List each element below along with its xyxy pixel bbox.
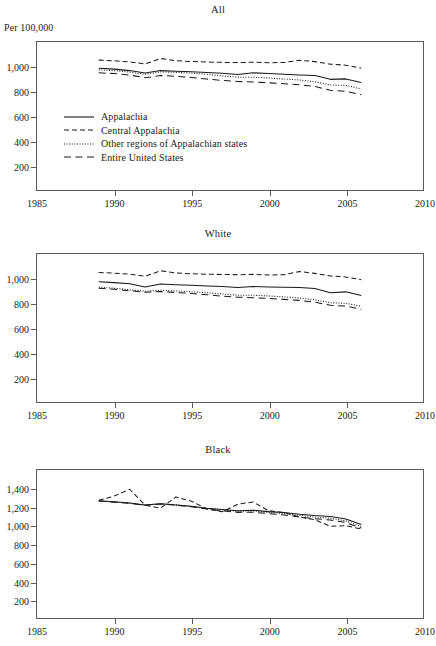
chart-panel-white: White 2004006008001,00019851990199520002… <box>0 228 436 436</box>
legend-item-central-appalachia[interactable]: Central Appalachia <box>64 124 247 138</box>
x-axis-tick-label: 1995 <box>182 410 202 421</box>
series-line-central-appalachia <box>99 489 361 529</box>
y-axis-tick-label: 600 <box>14 324 29 335</box>
y-axis-tick <box>31 508 37 509</box>
y-axis-tick-label: 600 <box>14 558 29 569</box>
x-axis-tick <box>347 402 348 408</box>
x-axis-tick <box>115 618 116 624</box>
y-axis-tick-label: 200 <box>14 374 29 385</box>
legend-item-entire-united-states[interactable]: Entire United States <box>64 151 247 165</box>
series-line-entire-united-states <box>99 501 361 528</box>
y-axis-tick <box>31 142 37 143</box>
x-axis-tick-label: 1990 <box>105 410 125 421</box>
x-axis-tick-label: 2010 <box>415 626 435 637</box>
x-axis-tick-label: 1985 <box>27 198 47 209</box>
y-axis-tick-label: 400 <box>14 137 29 148</box>
figure-page: All Per 100,000 2004006008001,0001985199… <box>0 0 436 646</box>
x-axis-tick <box>347 190 348 196</box>
legend-item-other-regions[interactable]: Other regions of Appalachian states <box>64 137 247 151</box>
x-axis-tick-label: 2005 <box>337 626 357 637</box>
y-axis-tick <box>31 489 37 490</box>
x-axis-tick-label: 2010 <box>415 198 435 209</box>
x-axis-tick <box>115 402 116 408</box>
x-axis-tick-label: 1995 <box>182 198 202 209</box>
x-axis-tick-label: 1995 <box>182 626 202 637</box>
panel-title-black: Black <box>0 444 436 455</box>
y-axis-tick-label: 800 <box>14 540 29 551</box>
y-axis-tick-label: 600 <box>14 112 29 123</box>
x-axis-tick-label: 2010 <box>415 410 435 421</box>
y-axis-tick-label: 1,000 <box>7 521 30 532</box>
plot-area-black: 2004006008001,0001,2001,4001985199019952… <box>36 469 424 619</box>
x-axis-tick-label: 1990 <box>105 626 125 637</box>
x-axis-tick <box>192 190 193 196</box>
series-line-appalachia <box>99 282 361 296</box>
y-axis-tick-label: 800 <box>14 87 29 98</box>
y-axis-tick <box>31 526 37 527</box>
y-axis-tick <box>31 564 37 565</box>
legend-key-appalachia-icon <box>64 112 94 122</box>
y-axis-tick-label: 200 <box>14 596 29 607</box>
legend-key-other-regions-icon <box>64 139 94 149</box>
x-axis-tick <box>270 402 271 408</box>
y-axis-tick <box>31 545 37 546</box>
x-axis-tick-label: 2005 <box>337 410 357 421</box>
legend-item-appalachia[interactable]: Appalachia <box>64 110 247 124</box>
y-axis-tick-label: 400 <box>14 577 29 588</box>
series-line-other-regions-of-appalachian-states <box>99 70 361 89</box>
plot-area-white: 2004006008001,00019851990199520002005201… <box>36 253 424 403</box>
y-axis-tick <box>31 67 37 68</box>
y-axis-tick-label: 1,400 <box>7 483 30 494</box>
legend-label: Other regions of Appalachian states <box>101 138 247 149</box>
series-line-other-regions-of-appalachian-states <box>99 501 361 526</box>
y-axis-tick <box>31 379 37 380</box>
series-line-central-appalachia <box>99 59 361 69</box>
y-axis-tick <box>31 167 37 168</box>
axis-unit-label: Per 100,000 <box>4 22 53 33</box>
plot-lines-white <box>37 254 423 402</box>
legend-key-entire-united-states-icon <box>64 152 94 162</box>
x-axis-tick-label: 2000 <box>260 626 280 637</box>
chart-legend: AppalachiaCentral AppalachiaOther region… <box>64 110 247 164</box>
x-axis-tick-label: 2000 <box>260 410 280 421</box>
y-axis-tick-label: 1,000 <box>7 274 30 285</box>
y-axis-tick-label: 1,000 <box>7 62 30 73</box>
y-axis-tick <box>31 304 37 305</box>
chart-panel-all: All Per 100,000 2004006008001,0001985199… <box>0 4 436 216</box>
series-line-appalachia <box>99 68 361 82</box>
y-axis-tick <box>31 354 37 355</box>
x-axis-tick-label: 2000 <box>260 198 280 209</box>
x-axis-tick-label: 1990 <box>105 198 125 209</box>
y-axis-tick-label: 400 <box>14 349 29 360</box>
series-line-central-appalachia <box>99 271 361 280</box>
x-axis-tick-label: 2005 <box>337 198 357 209</box>
y-axis-tick <box>31 117 37 118</box>
panel-title-white: White <box>0 228 436 239</box>
series-line-entire-united-states <box>99 288 361 309</box>
x-axis-tick <box>270 618 271 624</box>
panel-title-all: All <box>0 4 436 15</box>
x-axis-tick-label: 1985 <box>27 410 47 421</box>
legend-key-central-appalachia-icon <box>64 125 94 135</box>
legend-label: Appalachia <box>101 111 148 122</box>
x-axis-tick <box>115 190 116 196</box>
y-axis-tick-label: 1,200 <box>7 502 30 513</box>
legend-label: Central Appalachia <box>101 125 180 136</box>
y-axis-tick <box>31 601 37 602</box>
x-axis-tick <box>192 402 193 408</box>
y-axis-tick <box>31 279 37 280</box>
x-axis-tick <box>270 190 271 196</box>
y-axis-tick-label: 200 <box>14 162 29 173</box>
series-line-entire-united-states <box>99 73 361 95</box>
y-axis-tick <box>31 92 37 93</box>
y-axis-tick <box>31 329 37 330</box>
y-axis-tick-label: 800 <box>14 299 29 310</box>
y-axis-tick <box>31 583 37 584</box>
x-axis-tick-label: 1985 <box>27 626 47 637</box>
x-axis-tick <box>192 618 193 624</box>
chart-panel-black: Black 2004006008001,0001,2001,4001985199… <box>0 444 436 646</box>
legend-label: Entire United States <box>101 152 184 163</box>
plot-lines-black <box>37 470 423 618</box>
x-axis-tick <box>347 618 348 624</box>
